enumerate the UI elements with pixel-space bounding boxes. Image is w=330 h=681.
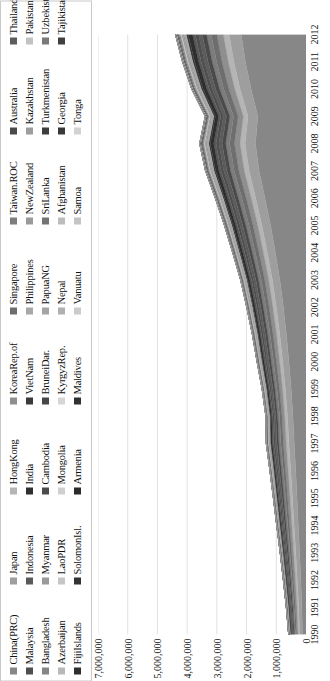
legend-column-5: SingaporePhilippinesPapuaNGNepalVanuatu	[6, 224, 85, 314]
legend-swatch-icon	[42, 307, 49, 314]
legend-item[interactable]: India	[22, 404, 37, 494]
legend-item[interactable]: Thailand	[6, 0, 21, 44]
legend-item[interactable]: Georgia	[54, 44, 69, 134]
legend-item[interactable]: China(PRC)	[6, 584, 21, 674]
x-axis-tick-label: 1993	[309, 542, 320, 562]
legend-item[interactable]: Nepal	[54, 224, 69, 314]
legend-item[interactable]: Tajikistan	[54, 0, 69, 44]
x-axis-tick-label: 2000	[309, 351, 320, 371]
legend-swatch-icon	[10, 397, 17, 404]
x-axis-tick-label: 2009	[309, 106, 320, 126]
legend-item-label: Azerbaijan	[54, 620, 69, 664]
legend-item[interactable]: NewZealand	[22, 134, 37, 224]
legend-item-label: SriLanka	[38, 177, 53, 214]
legend-item-label: Taiwan.ROC	[6, 161, 21, 214]
legend-item[interactable]: FijiIslands	[70, 584, 85, 674]
legend-item[interactable]: Maldives	[70, 314, 85, 404]
legend-item[interactable]: Philippines	[22, 224, 37, 314]
legend-item[interactable]: Pakistan	[22, 0, 37, 44]
legend-column-7: AustraliaKazakhstanTurkmenistanGeorgiaTo…	[6, 44, 85, 134]
legend-swatch-icon	[42, 217, 49, 224]
legend-item[interactable]: KoreaRep.of	[6, 314, 21, 404]
legend-item-label: BruneiDar.	[38, 350, 53, 394]
legend-item-label: Samoa	[70, 186, 85, 214]
legend-item[interactable]: Singapore	[6, 224, 21, 314]
legend-column-6: Taiwan.ROCNewZealandSriLankaAfghanistanS…	[6, 134, 85, 224]
legend-item[interactable]: Vanuatu	[70, 224, 85, 314]
legend-item[interactable]: LaoPDR	[54, 494, 69, 584]
x-axis-tick-label: 2004	[309, 242, 320, 262]
legend-item-label: Japan	[6, 551, 21, 574]
legend-swatch-icon	[74, 217, 81, 224]
x-axis-tick-label: 1994	[309, 515, 320, 535]
legend-swatch-icon	[26, 307, 33, 314]
legend-item[interactable]: BruneiDar.	[38, 314, 53, 404]
legend-item-label: Cambodia	[38, 442, 53, 484]
x-axis-tick-label: 1990	[309, 624, 320, 644]
legend-item-label: FijiIslands	[70, 622, 85, 664]
legend-item[interactable]: Samoa	[70, 134, 85, 224]
legend-swatch-icon	[58, 667, 65, 674]
legend-item-label: Tajikistan	[54, 0, 69, 34]
legend-item-label: Singapore	[6, 263, 21, 304]
legend-swatch-icon	[26, 127, 33, 134]
legend-item[interactable]: HongKong	[6, 404, 21, 494]
legend-item[interactable]: Azerbaijan	[54, 584, 69, 674]
legend-swatch-icon	[10, 307, 17, 314]
legend-item-label: KyrgyzRep.	[54, 345, 69, 394]
rotated-chart-canvas: China(PRC)MalaysiaBangladeshAzerbaijanFi…	[0, 0, 330, 681]
legend-item[interactable]: Indonesia	[22, 494, 37, 584]
legend-item[interactable]: Tonga	[70, 44, 85, 134]
legend-swatch-icon	[10, 667, 17, 674]
legend-swatch-icon	[74, 487, 81, 494]
x-axis-tick-label: 2006	[309, 188, 320, 208]
legend-item[interactable]: Kazakhstan	[22, 44, 37, 134]
x-axis-tick-label: 2008	[309, 133, 320, 153]
plot-area-wrapper: 01,000,0002,000,0003,000,0004,000,0005,0…	[92, 0, 330, 681]
y-axis-tick-label: 5,000,000	[152, 638, 163, 681]
y-axis-tick-label: 3,000,000	[211, 638, 222, 681]
legend-item[interactable]: Mongolia	[54, 404, 69, 494]
legend-item[interactable]: Malaysia	[22, 584, 37, 674]
chart-legend: China(PRC)MalaysiaBangladeshAzerbaijanFi…	[0, 0, 92, 681]
legend-swatch-icon	[10, 127, 17, 134]
legend-item[interactable]: Afghanistan	[54, 134, 69, 224]
legend-swatch-icon	[42, 127, 49, 134]
legend-item[interactable]: Armenia	[70, 404, 85, 494]
x-axis-tick-label: 1997	[309, 433, 320, 453]
legend-item[interactable]: SolomonIsl.	[70, 494, 85, 584]
plot-area	[98, 34, 306, 634]
legend-swatch-icon	[74, 577, 81, 584]
legend-item[interactable]: SriLanka	[38, 134, 53, 224]
y-axis-tick-label: 4,000,000	[182, 638, 193, 681]
legend-item-label: China(PRC)	[6, 614, 21, 664]
legend-item[interactable]: Myanmar	[38, 494, 53, 584]
x-axis-tick-label: 2005	[309, 215, 320, 235]
legend-item[interactable]: Uzbekistan	[38, 0, 53, 44]
legend-item-label: Indonesia	[22, 535, 37, 574]
legend-item-label: Australia	[6, 87, 21, 124]
legend-item[interactable]: Cambodia	[38, 404, 53, 494]
legend-item[interactable]: PapuaNG	[38, 224, 53, 314]
legend-item[interactable]: KyrgyzRep.	[54, 314, 69, 404]
legend-column-3: HongKongIndiaCambodiaMongoliaArmenia	[6, 404, 85, 494]
legend-item[interactable]: Japan	[6, 494, 21, 584]
legend-swatch-icon	[26, 487, 33, 494]
legend-swatch-icon	[42, 667, 49, 674]
legend-item-label: Vanuatu	[70, 271, 85, 304]
x-axis-tick-label: 1999	[309, 379, 320, 399]
legend-item[interactable]: Bangladesh	[38, 584, 53, 674]
legend-item-label: Afghanistan	[54, 165, 69, 214]
x-axis-tick-label: 1996	[309, 460, 320, 480]
x-axis-tick-label: 2003	[309, 269, 320, 289]
legend-item[interactable]: VietNam	[22, 314, 37, 404]
legend-item-label: NewZealand	[22, 162, 37, 214]
y-axis-tick-label: 2,000,000	[241, 638, 252, 681]
legend-item[interactable]: Taiwan.ROC	[6, 134, 21, 224]
legend-item[interactable]: Australia	[6, 44, 21, 134]
legend-item[interactable]: Turkmenistan	[38, 44, 53, 134]
legend-item-label: Georgia	[54, 92, 69, 124]
y-axis-tick-label: 1,000,000	[271, 638, 282, 681]
legend-item-label: Philippines	[22, 259, 37, 304]
legend-swatch-icon	[58, 307, 65, 314]
